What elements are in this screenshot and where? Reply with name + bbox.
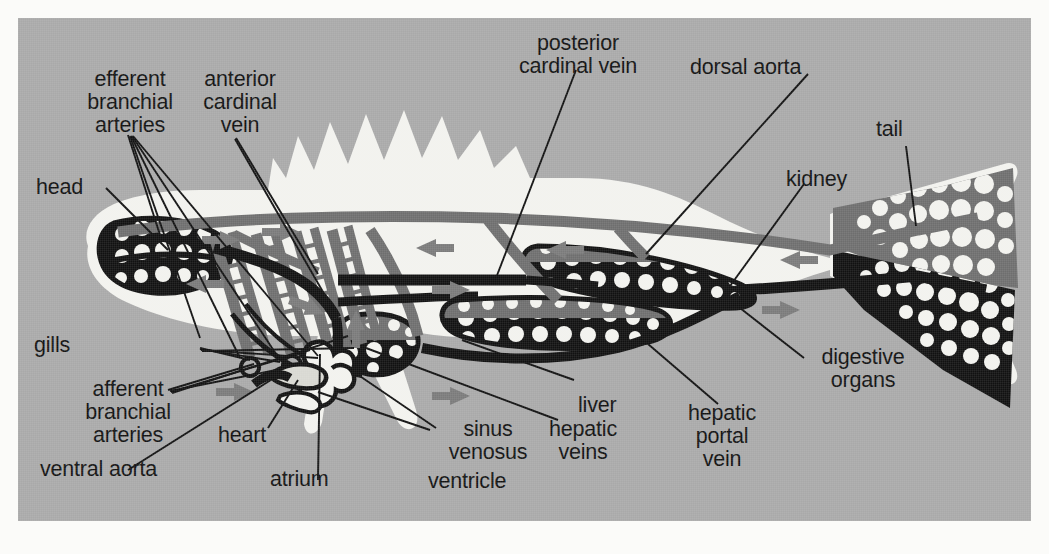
figure-stage: efferent branchial arteries anterior car… — [0, 0, 1049, 554]
arrow-portal-left — [432, 387, 470, 405]
label-liver: liver — [578, 394, 616, 417]
label-hepatic-portal-vein: hepatic portal vein — [662, 402, 782, 471]
diagram-panel: efferent branchial arteries anterior car… — [18, 18, 1031, 521]
label-posterior-cardinal-vein: posterior cardinal vein — [478, 32, 678, 78]
label-dorsal-aorta: dorsal aorta — [690, 56, 801, 79]
label-ventral-aorta: ventral aorta — [40, 458, 157, 481]
label-ventricle: ventricle — [428, 470, 506, 493]
label-hepatic-veins: hepatic veins — [518, 418, 648, 464]
label-tail: tail — [876, 118, 903, 141]
label-heart: heart — [218, 424, 266, 447]
arrow-caudal-left — [762, 301, 800, 319]
label-digestive-organs: digestive organs — [788, 346, 938, 392]
label-atrium: atrium — [270, 468, 329, 491]
label-gills: gills — [34, 334, 70, 357]
label-head: head — [36, 176, 83, 199]
label-kidney: kidney — [786, 168, 847, 191]
label-anterior-cardinal-vein: anterior cardinal vein — [170, 68, 310, 137]
arrow-ventral-left — [216, 383, 254, 401]
label-afferent-branchial-arteries: afferent branchial arteries — [48, 378, 208, 447]
